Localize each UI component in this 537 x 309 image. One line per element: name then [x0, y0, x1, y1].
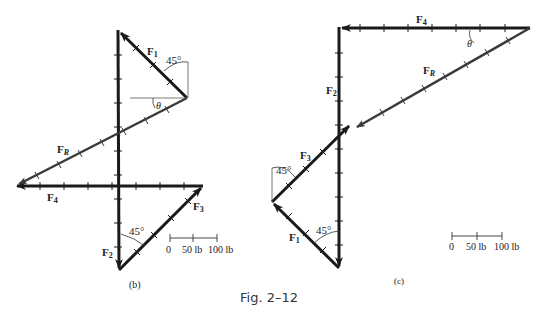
force-polygon-diagram: F1 45° θ FR F4 F3 45° F2 0 50 lb 100 lb … [0, 0, 537, 309]
vector-f1-c [274, 204, 339, 268]
label-f2-b: F2 [102, 246, 113, 260]
label-f3-c: F3 [300, 149, 311, 163]
label-f1-b: F1 [147, 45, 158, 59]
label-f4-b: F4 [47, 191, 58, 205]
label-f4-c: F4 [416, 13, 427, 27]
scale-label-50-b: 50 lb [182, 244, 202, 255]
label-f2-c: F2 [326, 84, 337, 98]
angle-label-45-bottom-c: 45° [316, 224, 331, 236]
panel-c: F4 θ FR F2 F3 45° 45° F1 0 50 lb 100 lb … [272, 13, 530, 286]
scale-bar-c [452, 232, 502, 240]
figure-2-12: F1 45° θ FR F4 F3 45° F2 0 50 lb 100 lb … [0, 0, 537, 309]
angle-arc-theta-b [153, 98, 155, 108]
scale-label-0-b: 0 [166, 244, 171, 255]
vector-fr-b [19, 98, 187, 184]
scale-bar-b [170, 234, 217, 242]
label-f1-c: F1 [289, 231, 300, 245]
angle-label-theta-b: θ [156, 100, 161, 111]
scale-label-0-c: 0 [449, 241, 454, 252]
angle-label-theta-c: θ [467, 38, 472, 49]
scale-label-100-b: 100 lb [208, 244, 233, 255]
panel-b: F1 45° θ FR F4 F3 45° F2 0 50 lb 100 lb … [17, 30, 233, 291]
angle-label-45-top-b: 45° [166, 54, 181, 66]
figure-caption: Fig. 2–12 [240, 290, 298, 305]
panel-label-b: (b) [129, 279, 141, 291]
label-fr-c: FR [423, 64, 436, 78]
panel-label-c: (c) [394, 276, 404, 286]
angle-label-45-bottom-b: 45° [129, 225, 144, 237]
vector-f2-b [118, 30, 119, 268]
ticks-fr-c [380, 37, 510, 116]
label-f3-b: F3 [193, 200, 204, 214]
scale-label-50-c: 50 lb [466, 241, 486, 252]
scale-label-100-c: 100 lb [494, 241, 519, 252]
vector-fr-c [357, 28, 530, 127]
angle-label-45-left-c: 45° [276, 164, 291, 176]
label-fr-b: FR [57, 143, 70, 157]
